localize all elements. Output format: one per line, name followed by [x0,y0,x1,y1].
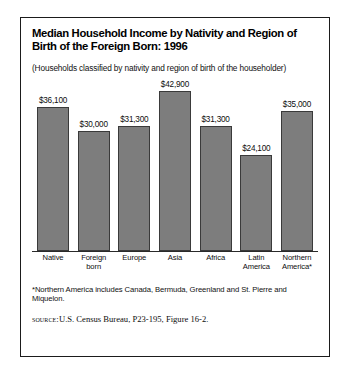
bar-rect [240,155,272,251]
bar-group-native: $36,100 [37,80,69,251]
bar-group-northern-america: $35,000 [281,80,313,251]
bar-rect [118,126,150,251]
bar-group-asia: $42,900 [159,80,191,251]
x-axis-line [32,251,318,252]
x-tick-label-asia: Asia [159,253,191,273]
bar-group-foreign-born: $30,000 [78,80,110,251]
bar-group-africa: $31,300 [200,80,232,251]
bar-rect [37,107,69,251]
figure-frame: Median Household Income by Nativity and … [20,17,330,357]
bar-value-label: $35,000 [283,100,311,109]
bar-rect [78,131,110,251]
bar-rect [281,111,313,251]
bar-value-label: $31,300 [202,115,230,124]
figure-footnote: *Northern America includes Canada, Bermu… [32,285,318,304]
plot-area: $36,100 $30,000 $31,300 $42,900 $31,300 [32,80,318,273]
x-tick-label-foreign-born: Foreign born [78,253,110,273]
chart-title: Median Household Income by Nativity and … [32,27,318,54]
source-text: U.S. Census Bureau, P23-195, Figure 16-2… [59,314,208,324]
bar-value-label: $30,000 [80,120,108,129]
x-tick-label-northern-america: Northern America* [281,253,313,273]
x-tick-label-latin-america: Latin America [240,253,272,273]
x-tick-label-europe: Europe [118,253,150,273]
bar-group-latin-america: $24,100 [240,80,272,251]
figure-source: Source:U.S. Census Bureau, P23-195, Figu… [32,314,318,324]
bar-series: $36,100 $30,000 $31,300 $42,900 $31,300 [37,80,313,251]
bar-value-label: $36,100 [39,96,67,105]
bar-value-label: $24,100 [242,144,270,153]
figure-content: Median Household Income by Nativity and … [21,18,329,356]
source-label: Source: [32,314,59,324]
bar-rect [159,91,191,251]
bar-rect [200,126,232,251]
x-axis-labels: Native Foreign born Europe Asia Africa L… [37,253,313,273]
bar-value-label: $31,300 [120,115,148,124]
chart-subtitle: (Households classified by nativity and r… [32,63,318,73]
bar-value-label: $42,900 [161,80,189,89]
x-tick-label-native: Native [37,253,69,273]
bar-group-europe: $31,300 [118,80,150,251]
x-tick-label-africa: Africa [200,253,232,273]
